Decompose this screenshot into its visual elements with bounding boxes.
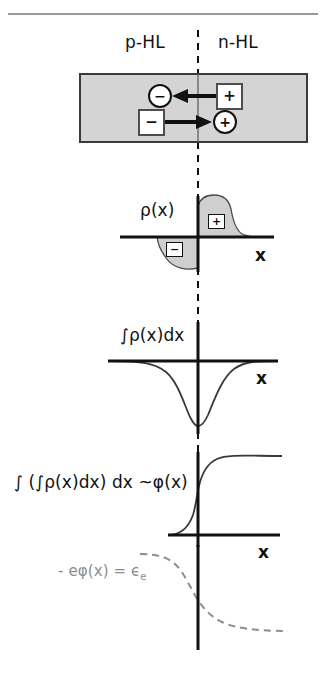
first-integral-axis-label-x: x [256, 368, 267, 388]
semiconductor-junction-figure: p-HL n-HL − + − + ρ(x) + − x ∫ρ(x)dx x ∫… [0, 0, 325, 680]
device-slab [80, 74, 307, 142]
hole-circle-icon: + [213, 110, 237, 134]
first-integral-curve [112, 361, 276, 426]
donor-box-icon: + [216, 83, 243, 110]
rho-axis-label-x: x [255, 245, 266, 265]
rho-label: ρ(x) [140, 200, 175, 220]
electron-energy-curve [140, 554, 288, 631]
electron-energy-label-text: - eφ(x) = ϵ [58, 562, 140, 580]
semiconductor-bar [80, 74, 307, 142]
electron-energy-label: - eφ(x) = ϵe [58, 562, 147, 582]
first-integral-label: ∫ρ(x)dx [120, 325, 185, 345]
potential-curve [168, 456, 282, 535]
rho-negative-marker: − [166, 242, 183, 257]
potential-label: ∫ (∫ρ(x)dx) dx ~φ(x) [14, 472, 188, 492]
electron-circle-icon: − [148, 84, 172, 108]
electron-energy-label-subscript: e [140, 571, 146, 582]
panel-potential [168, 452, 282, 547]
region-label-n: n-HL [218, 32, 258, 52]
rho-positive-lobe [198, 195, 252, 237]
region-label-p: p-HL [125, 32, 165, 52]
rho-positive-marker: + [208, 214, 225, 229]
potential-axis-label-x: x [258, 542, 269, 562]
acceptor-box-icon: − [138, 109, 165, 136]
